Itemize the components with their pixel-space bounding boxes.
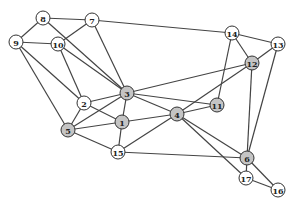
node-17: 17 — [239, 171, 253, 185]
edge-8-3 — [43, 18, 127, 93]
edge-9-2 — [16, 42, 84, 103]
edge-9-5 — [16, 42, 68, 130]
node-label: 3 — [124, 89, 130, 99]
node-1: 1 — [115, 115, 129, 129]
edge-5-15 — [68, 130, 118, 152]
node-5: 5 — [61, 123, 75, 137]
node-label: 5 — [65, 126, 71, 136]
node-12: 12 — [245, 56, 259, 70]
node-7: 7 — [85, 13, 99, 27]
edge-4-6 — [177, 114, 247, 158]
node-3: 3 — [120, 86, 134, 100]
nodes-layer: 1234567891011121314151617 — [9, 11, 285, 197]
node-11: 11 — [210, 98, 224, 112]
node-label: 1 — [119, 118, 125, 128]
edge-5-1 — [68, 122, 122, 130]
node-label: 16 — [272, 186, 284, 196]
node-6: 6 — [240, 151, 254, 165]
node-label: 17 — [240, 174, 251, 184]
node-16: 16 — [271, 183, 285, 197]
edge-11-14 — [217, 33, 232, 105]
node-label: 6 — [244, 154, 250, 164]
edge-7-14 — [92, 20, 232, 33]
edge-4-17 — [177, 114, 246, 178]
node-label: 15 — [112, 148, 123, 158]
node-label: 13 — [272, 40, 284, 50]
node-label: 14 — [226, 29, 238, 39]
node-8: 8 — [36, 11, 50, 25]
edge-1-4 — [122, 114, 177, 122]
node-label: 10 — [52, 40, 64, 50]
node-2: 2 — [77, 96, 91, 110]
node-label: 12 — [246, 59, 257, 69]
node-13: 13 — [271, 37, 285, 51]
node-14: 14 — [225, 26, 239, 40]
node-label: 9 — [13, 38, 19, 48]
node-label: 7 — [89, 16, 95, 26]
node-9: 9 — [9, 35, 23, 49]
node-label: 11 — [211, 101, 222, 111]
graph-diagram: 1234567891011121314151617 — [0, 0, 297, 212]
node-15: 15 — [111, 145, 125, 159]
node-label: 8 — [40, 14, 46, 24]
node-label: 4 — [174, 110, 180, 120]
edge-7-3 — [92, 20, 127, 93]
node-10: 10 — [51, 37, 65, 51]
node-4: 4 — [170, 107, 184, 121]
edge-15-6 — [118, 152, 247, 158]
node-label: 2 — [81, 99, 87, 109]
edge-3-12 — [127, 63, 252, 93]
